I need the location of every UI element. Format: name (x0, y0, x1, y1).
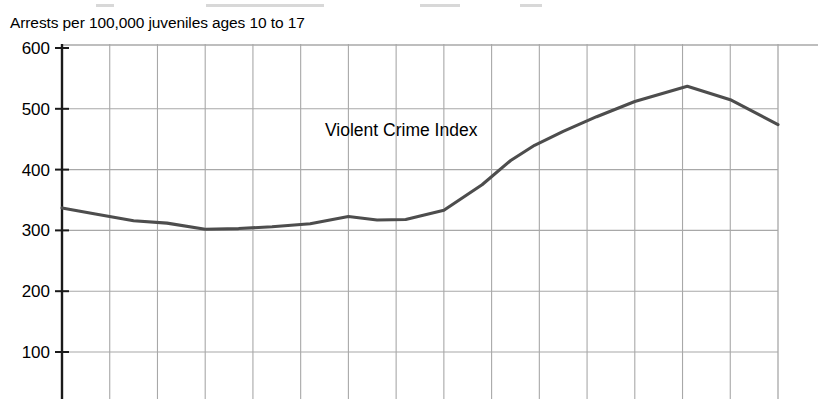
y-axis-tick-label: 500 (22, 100, 50, 119)
series-line-violent-crime-index (62, 86, 778, 229)
y-axis-tick-label: 200 (22, 282, 50, 301)
y-axis-tick-label: 300 (22, 221, 50, 240)
grid-lines-vertical (110, 44, 778, 399)
y-axis-tick-label: 100 (22, 343, 50, 362)
violent-crime-index-line-chart: 100200300400500600 Violent Crime Index (0, 0, 818, 399)
y-axis-tick-labels: 100200300400500600 (22, 39, 50, 362)
y-axis-tick-label: 600 (22, 39, 50, 58)
series-annotation-label: Violent Crime Index (325, 120, 478, 140)
y-axis-tick-label: 400 (22, 161, 50, 180)
chart-page: Arrests per 100,000 juveniles ages 10 to… (0, 0, 818, 399)
series-annotation-violent-crime-index: Violent Crime Index (325, 120, 478, 140)
chart-plot-area: 100200300400500600 Violent Crime Index (0, 0, 818, 399)
